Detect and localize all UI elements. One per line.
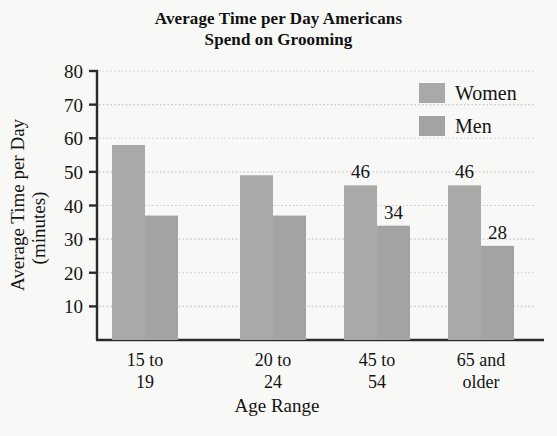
- bar-men-2: [377, 226, 410, 340]
- legend-label-men: Men: [455, 115, 492, 137]
- x-axis-title: Age Range: [235, 395, 320, 416]
- category-label-3-line-0: 65 and: [457, 350, 506, 370]
- bar-men-1: [273, 216, 306, 340]
- bar-men-3: [481, 246, 514, 340]
- value-label-men-2: 34: [384, 202, 404, 223]
- y-axis-title: Average Time per Day: [7, 118, 28, 291]
- value-label-women-2: 46: [351, 161, 370, 182]
- y-tick-label-40: 40: [64, 196, 83, 217]
- y-tick-label-60: 60: [64, 128, 83, 149]
- legend-swatch-men: [419, 116, 445, 136]
- legend-swatch-women: [419, 83, 445, 103]
- category-label-0-line-1: 19: [136, 372, 154, 392]
- x-axis-category-labels: 15 to1920 to2445 to5465 andolder: [127, 350, 506, 392]
- category-label-2-line-0: 45 to: [359, 350, 396, 370]
- category-label-0-line-0: 15 to: [127, 350, 164, 370]
- value-label-men-3: 28: [488, 222, 507, 243]
- y-tick-label-50: 50: [64, 162, 83, 183]
- y-tick-label-30: 30: [64, 229, 83, 250]
- bar-chart-plot: 1020304050607080 46344628 15 to1920 to24…: [0, 0, 557, 436]
- y-axis-tick-labels: 1020304050607080: [64, 61, 83, 317]
- bar-women-3: [448, 185, 481, 340]
- legend-label-women: Women: [455, 82, 517, 104]
- category-label-1-line-0: 20 to: [255, 350, 292, 370]
- y-tick-label-80: 80: [64, 61, 83, 82]
- category-label-1-line-1: 24: [264, 372, 282, 392]
- bar-women-0: [112, 145, 145, 340]
- chart-legend: WomenMen: [419, 82, 517, 137]
- category-label-3-line-1: older: [463, 372, 500, 392]
- chart-page: Average Time per Day Americans Spend on …: [0, 0, 557, 436]
- bar-women-1: [240, 175, 273, 340]
- y-tick-label-20: 20: [64, 263, 83, 284]
- value-label-women-3: 46: [455, 161, 474, 182]
- bar-men-0: [145, 216, 178, 340]
- bar-women-2: [344, 185, 377, 340]
- bars-group: [112, 145, 514, 340]
- y-tick-label-10: 10: [64, 296, 83, 317]
- y-tick-label-70: 70: [64, 95, 83, 116]
- category-label-2-line-1: 54: [368, 372, 386, 392]
- y-axis-title-units: (minutes): [28, 192, 50, 265]
